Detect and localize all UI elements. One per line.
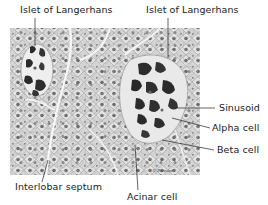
label-beta-cell: Beta cell: [217, 144, 259, 155]
islet-left: [21, 44, 53, 96]
label-islet-of-langerhans-left: Islet of Langerhans: [20, 4, 113, 15]
artist-signature: © Parnam: [152, 168, 173, 173]
label-islet-of-langerhans-right: Islet of Langerhans: [146, 4, 239, 15]
label-alpha-cell: Alpha cell: [212, 122, 259, 133]
label-sinusoid: Sinusoid: [219, 102, 260, 113]
label-acinar-cell: Acinar cell: [127, 191, 177, 202]
label-interlobar-septum: Interlobar septum: [15, 181, 102, 192]
